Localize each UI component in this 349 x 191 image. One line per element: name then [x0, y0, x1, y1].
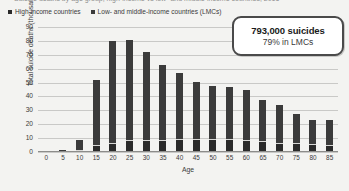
bar-group [321, 120, 338, 152]
x-axis-title: Age [38, 166, 338, 173]
stacked-bar [193, 82, 200, 152]
x-tick-label: 35 [155, 154, 172, 161]
stacked-bar [159, 65, 166, 152]
y-tick-label: 10 [26, 135, 33, 142]
legend-swatch-high-income [8, 10, 12, 14]
legend-item-lmc: Low- and middle-income countries (LMCs) [91, 8, 222, 15]
bar-segment-high-income [209, 139, 216, 153]
bar-segment-lmc [93, 80, 100, 145]
y-axis-tick-labels: 0102030405060708090 [0, 27, 36, 152]
x-axis-line [38, 151, 338, 152]
y-tick-label: 90 [26, 24, 33, 31]
x-tick-label: 55 [221, 154, 238, 161]
x-tick-label: 30 [138, 154, 155, 161]
bar-segment-lmc [326, 120, 333, 145]
bar-group [88, 80, 105, 152]
bar-segment-lmc [159, 65, 166, 140]
bar-group [155, 65, 172, 152]
bar-group [255, 100, 272, 152]
stacked-bar [293, 114, 300, 152]
stacked-bar [309, 120, 316, 152]
callout-box: 793,000 suicides 79% in LMCs [232, 16, 344, 56]
x-tick-label: 5 [55, 154, 72, 161]
x-axis-tick-labels: 0510152025303540455055606570758085 [38, 154, 338, 164]
clipped-chart-title-text: Suicide deaths by age group, high-income… [14, 0, 279, 2]
stacked-bar [226, 87, 233, 152]
legend-swatch-lmc [91, 10, 95, 14]
bar-segment-lmc [243, 90, 250, 140]
stacked-bar [143, 52, 150, 152]
bar-group [221, 87, 238, 152]
stacked-bar [276, 105, 283, 152]
bar-group [205, 86, 222, 152]
x-tick-label: 50 [205, 154, 222, 161]
bar-group [271, 105, 288, 152]
x-tick-label: 75 [288, 154, 305, 161]
bar-group [171, 73, 188, 152]
stacked-bar [109, 41, 116, 152]
y-tick-label: 80 [26, 38, 33, 45]
bar-segment-lmc [226, 87, 233, 138]
x-tick-label: 20 [105, 154, 122, 161]
bar-group [105, 41, 122, 152]
bar-group [288, 114, 305, 152]
x-tick-label: 65 [255, 154, 272, 161]
x-tick-label: 45 [188, 154, 205, 161]
bar-group [305, 120, 322, 152]
chart-legend: High-income countries Low- and middle-in… [8, 6, 221, 17]
x-tick-label: 40 [171, 154, 188, 161]
x-tick-label: 85 [321, 154, 338, 161]
stacked-bar [209, 86, 216, 152]
x-tick-label: 70 [271, 154, 288, 161]
stacked-bar [326, 120, 333, 152]
x-tick-label: 15 [88, 154, 105, 161]
legend-label-lmc: Low- and middle-income countries (LMCs) [98, 8, 222, 15]
bar-group [188, 82, 205, 152]
stacked-bar [93, 80, 100, 152]
y-tick-label: 50 [26, 79, 33, 86]
bar-segment-lmc [259, 100, 266, 142]
callout-line-1: 793,000 suicides [251, 25, 324, 36]
x-tick-label: 25 [121, 154, 138, 161]
suicide-deaths-by-age-chart: Suicide deaths by age group, high-income… [0, 0, 349, 191]
y-tick-label: 70 [26, 51, 33, 58]
x-tick-label: 80 [305, 154, 322, 161]
y-tick-label: 60 [26, 65, 33, 72]
bar-group [121, 40, 138, 152]
bar-segment-high-income [193, 139, 200, 153]
bar-segment-lmc [76, 140, 83, 150]
y-tick-label: 30 [26, 107, 33, 114]
x-tick-label: 60 [238, 154, 255, 161]
y-tick-label: 40 [26, 93, 33, 100]
bar-segment-lmc [276, 105, 283, 143]
gridline [38, 152, 338, 153]
bar-segment-lmc [126, 40, 133, 140]
bar-segment-lmc [176, 73, 183, 138]
stacked-bar [126, 40, 133, 152]
bar-segment-lmc [193, 82, 200, 139]
bar-segment-lmc [309, 120, 316, 144]
stacked-bar [176, 73, 183, 152]
x-tick-label: 10 [71, 154, 88, 161]
stacked-bar [259, 100, 266, 152]
bar-group [238, 90, 255, 152]
y-tick-label: 20 [26, 121, 33, 128]
bar-segment-lmc [109, 41, 116, 142]
legend-item-high-income: High-income countries [8, 8, 81, 15]
legend-label-high-income: High-income countries [15, 8, 81, 15]
callout-line-2: 79% in LMCs [263, 37, 314, 47]
bar-segment-high-income [176, 139, 183, 153]
bar-segment-high-income [226, 139, 233, 153]
x-tick-label: 0 [38, 154, 55, 161]
bar-group [138, 52, 155, 152]
bar-segment-lmc [143, 52, 150, 140]
stacked-bar [243, 90, 250, 152]
bar-segment-lmc [209, 86, 216, 139]
bar-segment-lmc [293, 114, 300, 143]
y-tick-label: 0 [29, 149, 33, 156]
